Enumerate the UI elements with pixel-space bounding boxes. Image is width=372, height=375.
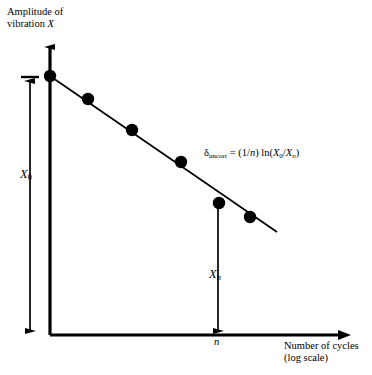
formula-close-paren: ) — [296, 147, 300, 158]
x0-label-subscript: 0 — [28, 173, 32, 182]
x-axis-title: Number of cycles (log scale) — [284, 340, 359, 365]
xn-label-subscript: n — [217, 273, 221, 282]
formula-x0-subscript: 0 — [279, 152, 282, 159]
x-axis-title-line2: (log scale) — [284, 352, 328, 363]
formula-xn-subscript: n — [292, 152, 295, 159]
formula-mid: ) ln( — [255, 147, 273, 158]
logarithmic-decrement-formula: δuncorr = (1/n) ln(X0/Xn) — [204, 147, 299, 159]
y-axis-title-line1: Amplitude of — [7, 6, 63, 17]
y-axis-title-line2: vibration — [7, 18, 45, 29]
logarithmic-decrement-figure: Amplitude of vibration X Number of cycle… — [0, 0, 372, 375]
formula-equals: = (1/ — [227, 147, 250, 158]
y-axis-title: Amplitude of vibration X — [7, 6, 63, 31]
x0-label-base: X — [20, 167, 28, 181]
y-axis-title-variable: X — [48, 18, 54, 29]
xn-label: Xn — [209, 267, 221, 282]
data-point — [82, 93, 94, 105]
x-axis-title-line1: Number of cycles — [284, 340, 359, 351]
data-point — [175, 156, 187, 168]
n-tick-label: n — [214, 336, 219, 348]
data-point — [244, 211, 256, 223]
xn-label-base: X — [209, 267, 217, 281]
figure-canvas — [0, 0, 372, 375]
data-point — [126, 124, 138, 136]
formula-delta-subscript: uncorr — [209, 152, 227, 159]
data-point — [44, 70, 56, 82]
x0-label: X0 — [20, 167, 32, 182]
data-point — [213, 197, 225, 209]
